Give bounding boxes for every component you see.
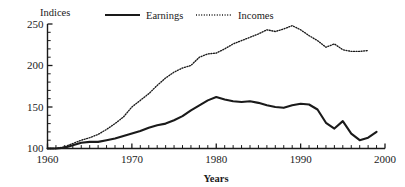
x-axis-tick-labels: 19601970198019902000 xyxy=(37,153,397,165)
chart-legend: Earnings Incomes xyxy=(105,10,274,21)
x-tick-label: 2000 xyxy=(374,153,397,165)
chart-figure: Indices Earnings Incomes 100150200250 19… xyxy=(0,0,405,187)
y-axis-ticks xyxy=(48,24,53,149)
y-tick-label: 200 xyxy=(27,59,44,71)
x-tick-label: 1980 xyxy=(205,153,228,165)
series-line-earnings xyxy=(48,97,377,148)
legend-label-incomes: Incomes xyxy=(238,10,274,21)
y-axis-label: Indices xyxy=(40,7,70,18)
y-tick-label: 150 xyxy=(27,101,44,113)
x-tick-label: 1970 xyxy=(121,153,144,165)
y-tick-label: 250 xyxy=(27,18,44,30)
x-axis-ticks xyxy=(48,144,386,149)
x-tick-label: 1960 xyxy=(37,153,60,165)
x-tick-label: 1990 xyxy=(290,153,313,165)
x-axis-title: Years xyxy=(203,173,228,184)
y-axis-tick-labels: 100150200250 xyxy=(27,18,44,155)
series-line-incomes xyxy=(48,26,369,149)
line-chart: Indices Earnings Incomes 100150200250 19… xyxy=(0,0,405,187)
legend-label-earnings: Earnings xyxy=(146,10,183,21)
